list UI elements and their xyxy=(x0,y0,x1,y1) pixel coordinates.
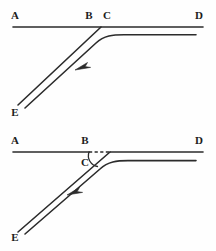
upper-diagram: A B C D E xyxy=(11,9,203,118)
figure-root: A B C D E A B C D xyxy=(0,0,216,251)
direction-arrow-icon-bottom xyxy=(67,188,83,196)
lower-diagram: A B C D E xyxy=(11,134,203,243)
label-d-bottom: D xyxy=(195,134,203,146)
ramp-curve-to-horizontal-bottom xyxy=(25,161,196,234)
label-e-bottom: E xyxy=(11,231,18,243)
ramp-curve-to-horizontal xyxy=(25,35,196,108)
direction-arrow-icon xyxy=(75,63,91,71)
label-a-top: A xyxy=(11,9,19,21)
junction-diagram: A B C D E A B C D xyxy=(0,0,216,251)
label-c-bottom: C xyxy=(81,156,89,168)
label-b-bottom: B xyxy=(81,134,89,146)
label-e-top: E xyxy=(11,106,18,118)
label-b-top: B xyxy=(85,9,93,21)
ramp-straight-c-e-bottom xyxy=(18,152,110,232)
label-d-top: D xyxy=(195,9,203,21)
ramp-straight-c-e xyxy=(18,27,101,105)
label-a-bottom: A xyxy=(11,134,19,146)
label-c-top: C xyxy=(103,9,111,21)
